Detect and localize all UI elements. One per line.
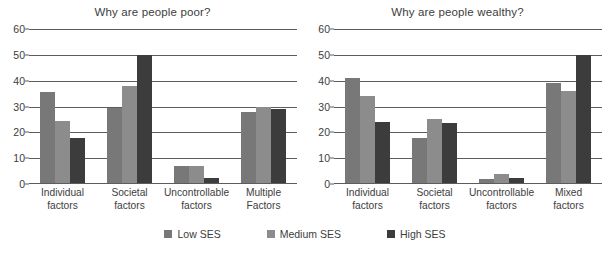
x-axis-category-label: Mixedfactors xyxy=(535,186,602,220)
x-axis-category-label: Societalfactors xyxy=(96,186,163,220)
panel-title: Why are people poor? xyxy=(0,6,305,18)
x-axis-category-label-line: factors xyxy=(535,199,602,212)
x-axis-category-label-line: factors xyxy=(334,199,401,212)
bar-group xyxy=(334,29,401,184)
bar xyxy=(442,123,457,184)
legend-swatch-icon xyxy=(267,230,275,238)
bar xyxy=(107,108,122,184)
bar-group xyxy=(29,29,96,184)
bar-groups-left xyxy=(29,29,297,184)
x-axis-category-label-line: Individual xyxy=(334,186,401,199)
bar-group xyxy=(535,29,602,184)
legend-item[interactable]: Low SES xyxy=(164,228,220,240)
x-axis-category-label: Individualfactors xyxy=(334,186,401,220)
bar xyxy=(412,138,427,185)
legend-label: High SES xyxy=(400,228,446,240)
x-axis-category-label-line: Uncontrollable xyxy=(163,186,230,199)
bar xyxy=(271,109,286,184)
x-axis-category-label-line: factors xyxy=(401,199,468,212)
bar-group xyxy=(401,29,468,184)
bar xyxy=(427,119,442,184)
bar-group xyxy=(163,29,230,184)
bar xyxy=(70,138,85,185)
chart-panel-why-are-people-poor: Why are people poor? 0102030405060 Indiv… xyxy=(0,0,305,222)
bar xyxy=(40,92,55,184)
x-axis-category-label: Societalfactors xyxy=(401,186,468,220)
plot-area-left xyxy=(29,29,297,184)
x-axis-category-label-line: factors xyxy=(96,199,163,212)
x-axis-category-label-line: factors xyxy=(163,199,230,212)
x-axis-category-label: Uncontrollablefactors xyxy=(163,186,230,220)
x-axis-baseline-left xyxy=(29,183,297,184)
y-axis-ticks-left xyxy=(0,29,29,184)
grouped-bar-chart-figure: Why are people poor? 0102030405060 Indiv… xyxy=(0,0,610,260)
x-axis-category-label: Uncontrollablefactors xyxy=(468,186,535,220)
plot-area-right xyxy=(334,29,602,184)
legend-swatch-icon xyxy=(387,230,395,238)
x-axis-category-label-line: factors xyxy=(29,199,96,212)
legend-item[interactable]: High SES xyxy=(387,228,446,240)
x-axis-category-label-line: Societal xyxy=(401,186,468,199)
x-axis-baseline-right xyxy=(334,183,602,184)
legend-swatch-icon xyxy=(164,230,172,238)
x-axis-labels-right: IndividualfactorsSocietalfactorsUncontro… xyxy=(334,186,602,220)
bar xyxy=(256,107,271,185)
x-axis-category-label-line: Societal xyxy=(96,186,163,199)
x-axis-category-label-line: Factors xyxy=(230,199,297,212)
bar xyxy=(576,55,591,184)
chart-panels: Why are people poor? 0102030405060 Indiv… xyxy=(0,0,610,222)
chart-legend: Low SESMedium SESHigh SES xyxy=(0,228,610,240)
legend-label: Medium SES xyxy=(280,228,341,240)
y-axis-ticks-right xyxy=(305,29,334,184)
bar xyxy=(546,83,561,184)
bar xyxy=(189,166,204,184)
x-axis-category-label-line: factors xyxy=(468,199,535,212)
bar xyxy=(122,86,137,184)
x-axis-category-label-line: Uncontrollable xyxy=(468,186,535,199)
bar-groups-right xyxy=(334,29,602,184)
bar xyxy=(137,55,152,184)
bar xyxy=(241,112,256,184)
bar-group xyxy=(96,29,163,184)
chart-panel-why-are-people-wealthy: Why are people wealthy? 0102030405060 In… xyxy=(305,0,610,222)
bar xyxy=(375,122,390,184)
x-axis-category-label: MultipleFactors xyxy=(230,186,297,220)
x-axis-category-label: Individualfactors xyxy=(29,186,96,220)
bar-group xyxy=(468,29,535,184)
bar-group xyxy=(230,29,297,184)
bar xyxy=(345,78,360,184)
x-axis-category-label-line: Mixed xyxy=(535,186,602,199)
bar xyxy=(174,166,189,184)
legend-label: Low SES xyxy=(177,228,220,240)
bar xyxy=(561,91,576,184)
legend-item[interactable]: Medium SES xyxy=(267,228,341,240)
bar xyxy=(55,121,70,184)
x-axis-category-label-line: Multiple xyxy=(230,186,297,199)
bar xyxy=(360,96,375,184)
x-axis-category-label-line: Individual xyxy=(29,186,96,199)
x-axis-labels-left: IndividualfactorsSocietalfactorsUncontro… xyxy=(29,186,297,220)
panel-title: Why are people wealthy? xyxy=(305,6,610,18)
